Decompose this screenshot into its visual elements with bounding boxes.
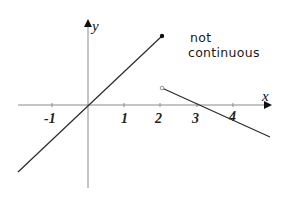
closed-endpoint-dot <box>160 34 164 38</box>
x-axis-label: x <box>261 88 269 104</box>
annotation-line-2: continuous <box>188 45 260 60</box>
right-segment <box>163 89 270 138</box>
tick-label-2: 2 <box>154 111 162 126</box>
tick-label-4: 4 <box>228 109 236 124</box>
tick-label-1: 1 <box>121 111 128 126</box>
y-axis-arrow-icon <box>84 19 92 27</box>
tick-label-neg1: -1 <box>44 111 56 126</box>
left-segment <box>18 36 162 172</box>
annotation-line-1: not <box>190 30 211 45</box>
open-endpoint-dot <box>160 86 164 90</box>
piecewise-graph: -1 1 2 3 4 x y not continuous <box>0 0 297 199</box>
tick-label-3: 3 <box>191 111 199 126</box>
y-axis-label: y <box>90 18 99 34</box>
